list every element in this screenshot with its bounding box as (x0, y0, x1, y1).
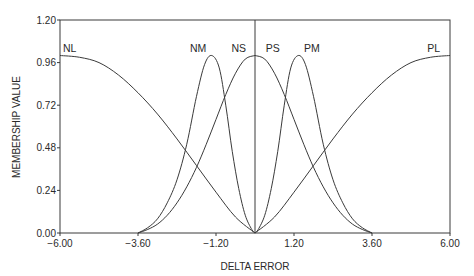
membership-chart: −6.00−3.60−1.201.203.606.00 0.000.240.48… (0, 0, 474, 276)
y-tick-label: 0.96 (37, 57, 57, 68)
x-axis-title: DELTA ERROR (220, 261, 289, 272)
plot-frame (60, 20, 450, 233)
series-label-nl: NL (63, 42, 77, 54)
curve-ps (255, 56, 372, 234)
x-tick-label: −1.20 (203, 238, 229, 249)
series-labels: NLNMNSPSPMPL (63, 42, 440, 54)
y-axis-title: MEMBERSHIP VALUE (11, 76, 22, 178)
x-tick-label: 6.00 (440, 238, 460, 249)
curve-pm (255, 55, 372, 233)
y-tick-label: 0.24 (37, 185, 57, 196)
y-tick-label: 0.72 (37, 100, 57, 111)
curve-nl (60, 56, 255, 234)
x-tick-label: 3.60 (362, 238, 382, 249)
series-label-pl: PL (427, 42, 440, 54)
series-label-ps: PS (266, 42, 280, 54)
y-tick-label: 0.00 (37, 228, 57, 239)
curve-nm (138, 55, 255, 233)
curve-pl (255, 56, 450, 234)
series-label-ns: NS (231, 42, 246, 54)
x-tick-label: 1.20 (284, 238, 304, 249)
y-tick-label: 1.20 (37, 15, 57, 26)
y-tick-label: 0.48 (37, 142, 57, 153)
series-label-pm: PM (304, 42, 320, 54)
x-tick-label: −3.60 (125, 238, 151, 249)
y-axis: 0.000.240.480.720.961.20 (37, 15, 60, 239)
series-label-nm: NM (190, 42, 206, 54)
x-axis: −6.00−3.60−1.201.203.606.00 (47, 233, 460, 249)
curve-ns (138, 56, 255, 234)
x-tick-label: −6.00 (47, 238, 73, 249)
